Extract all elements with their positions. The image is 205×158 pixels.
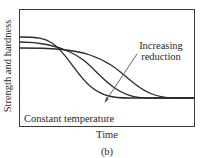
figure-caption: (b)	[101, 146, 114, 158]
y-axis-label: Strength and hardness	[2, 20, 13, 113]
arrow-head-icon	[105, 97, 110, 103]
chart-figure: Increasing reduction Constant temperatur…	[0, 0, 205, 158]
annotation-increasing: Increasing	[139, 40, 183, 51]
plot-frame	[20, 10, 195, 127]
x-axis-label: Time	[96, 129, 118, 140]
condition-label: Constant temperature	[24, 113, 114, 124]
annotation-reduction: reduction	[141, 51, 181, 62]
